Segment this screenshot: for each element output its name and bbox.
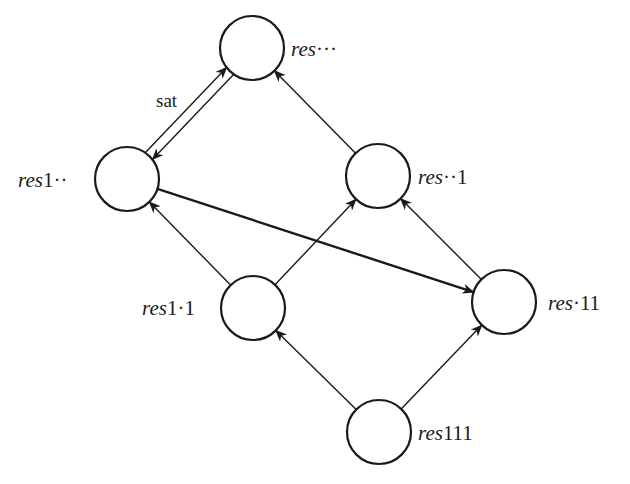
node-res111: [347, 400, 411, 464]
node-label-prefix: res: [418, 165, 443, 189]
edge-res11-to-res1: [149, 202, 230, 285]
node-label-suffix: ··1: [443, 165, 468, 189]
node-label-res_11: res·11: [548, 291, 600, 315]
edge-res11-to-res_1: [275, 199, 356, 285]
node-res_all: [220, 16, 284, 80]
node-res_11: [472, 270, 536, 334]
node-label-prefix: res: [18, 168, 43, 192]
node-res1: [95, 147, 159, 211]
node-label-prefix: res: [291, 37, 316, 61]
node-label-suffix: ·11: [573, 291, 600, 315]
labels: res···res1··res··1res1·1res·11res111: [18, 37, 600, 445]
node-label-res1: res1··: [18, 168, 67, 192]
node-res_1: [346, 144, 410, 208]
edge-res1-to-res_11: [157, 189, 473, 292]
node-label-res_1: res··1: [418, 165, 467, 189]
lattice-diagram: res···res1··res··1res1·1res·11res111 sat: [0, 0, 630, 484]
edges: [145, 67, 482, 409]
edge-res_11-to-res_1: [401, 199, 482, 280]
edge-res111-to-res11: [276, 330, 356, 409]
edge-res_all-to-res1: [152, 74, 233, 159]
edge-label-sat: sat: [156, 90, 178, 111]
node-label-suffix: 111: [443, 421, 473, 445]
edge-res_1-to-res_all: [274, 71, 355, 153]
edge-res111-to-res_11: [401, 325, 482, 409]
node-label-prefix: res: [418, 421, 443, 445]
node-label-suffix: 1·1: [167, 296, 195, 320]
node-label-suffix: 1··: [43, 168, 68, 192]
node-label-res_all: res···: [291, 37, 337, 61]
node-label-prefix: res: [142, 296, 167, 320]
node-res11: [221, 276, 285, 340]
node-label-res11: res1·1: [142, 296, 195, 320]
node-label-suffix: ···: [316, 37, 337, 61]
node-label-res111: res111: [418, 421, 473, 445]
node-label-prefix: res: [548, 291, 573, 315]
